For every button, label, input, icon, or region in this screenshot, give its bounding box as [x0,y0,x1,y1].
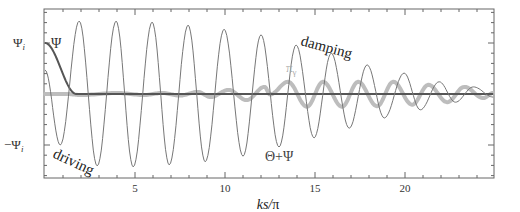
annotation-theta-plus-psi: Θ+Ψ [265,149,294,164]
annotation-damping: damping [299,32,354,61]
annotation-pi-gamma: πγ [286,60,297,77]
xtick-label-5: 5 [132,182,138,194]
xtick-label-15: 15 [310,182,322,194]
ytick-label-pos: Ψi [13,35,26,52]
annotation-driving: driving [51,145,97,178]
x-axis-title: ks/π [257,197,280,212]
xtick-label-10: 10 [220,182,232,194]
annotation-psi: Ψ [51,36,62,51]
xtick-label-20: 20 [400,182,412,194]
ytick-label-neg: −Ψi [4,137,24,154]
chart: Ψi −Ψi 5 10 15 20 ks/π Ψ driving damping… [0,0,520,212]
